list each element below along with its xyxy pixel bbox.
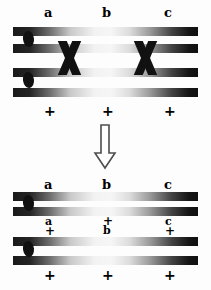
wildtype-label-a-bottom: + [44, 268, 56, 282]
wildtype-label-a-bottomgroup: + [45, 225, 55, 237]
gene-label-c-mid: c [164, 178, 172, 191]
chromatid-bar-3 [13, 68, 198, 77]
chromatid-bar-8 [13, 256, 198, 265]
gene-label-b-top: b [102, 6, 111, 19]
crossover-x-left [54, 41, 84, 75]
gene-label-a-mid: a [44, 178, 52, 191]
gene-label-b-mid: b [102, 178, 111, 191]
wildtype-label-a-top: + [44, 104, 56, 118]
gene-label-b-bottomgroup: b [103, 225, 111, 236]
gene-label-c-top: c [164, 6, 172, 19]
chromatid-bar-1 [13, 27, 198, 36]
wildtype-label-c-top: + [164, 104, 176, 118]
crossover-x-right [130, 41, 160, 75]
wildtype-label-b-top: + [102, 104, 114, 118]
gene-label-a-top: a [44, 6, 52, 19]
chromatid-bar-2 [13, 44, 198, 53]
chromatid-bar-4 [13, 88, 198, 97]
chromatid-bar-7 [13, 237, 198, 246]
diagram-canvas: a b c + + + a b c a + c [0, 0, 211, 290]
wildtype-label-c-bottomgroup: + [165, 225, 175, 237]
wildtype-label-b-bottom: + [102, 268, 114, 282]
wildtype-label-c-bottom: + [164, 268, 176, 282]
chromatid-bar-5 [13, 192, 198, 201]
process-arrow-down-icon [92, 124, 118, 170]
